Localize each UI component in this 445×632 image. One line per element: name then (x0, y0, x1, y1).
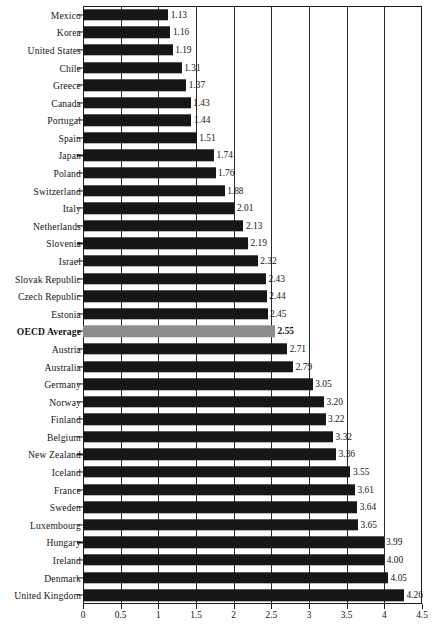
bar-value-label: 2.79 (296, 362, 312, 372)
table-row: United Kingdom4.26 (0, 586, 445, 604)
bar-value-label: 1.88 (227, 186, 243, 196)
bar-track (83, 343, 422, 354)
x-axis-tick (158, 604, 159, 609)
x-axis-tick (121, 604, 122, 609)
bar-track (83, 44, 422, 55)
table-row: Germany3.05 (0, 375, 445, 393)
category-label: Belgium (47, 431, 81, 442)
bar-value-label: 2.01 (237, 203, 253, 213)
bar-value-label: 3.64 (360, 502, 376, 512)
bar-value-label: 3.36 (339, 449, 355, 459)
table-row: Israel2.32 (0, 252, 445, 270)
table-row: Finland3.22 (0, 411, 445, 429)
table-row: Austria2.71 (0, 340, 445, 358)
bar-value-label: 1.16 (173, 27, 189, 37)
bar (83, 115, 191, 126)
x-axis-tick-label: 4.5 (416, 610, 428, 621)
bar (83, 220, 243, 231)
bar (83, 9, 168, 20)
table-row: Mexico1.13 (0, 6, 445, 24)
bar (83, 519, 358, 530)
table-row: Canada1.43 (0, 94, 445, 112)
bar-value-label: 2.45 (270, 309, 286, 319)
bar (83, 167, 216, 178)
bar (83, 27, 170, 38)
table-row: OECD Average2.55 (0, 323, 445, 341)
table-row: Ireland4.00 (0, 551, 445, 569)
bar-value-label: 3.99 (386, 537, 402, 547)
bar (83, 554, 384, 565)
bar-value-label: 4.00 (387, 555, 403, 565)
bar (83, 378, 313, 389)
x-axis-tick-label: 4 (382, 610, 387, 621)
bar-value-label: 2.13 (246, 221, 262, 231)
bar (83, 44, 173, 55)
bar (83, 203, 234, 214)
table-row: France3.61 (0, 481, 445, 499)
bar-value-label: 1.44 (194, 115, 210, 125)
bar-value-label: 1.76 (218, 168, 234, 178)
table-row: Hungary3.99 (0, 534, 445, 552)
bar-track (83, 62, 422, 73)
bar-rows: Mexico1.13Korea1.16United States1.19Chil… (0, 0, 445, 604)
table-row: Sweden3.64 (0, 498, 445, 516)
bar-value-label: 1.43 (193, 98, 209, 108)
bar-track (83, 255, 422, 266)
bar-value-label: 3.20 (327, 397, 343, 407)
bar-value-label: 2.44 (269, 291, 285, 301)
bar-value-label: 2.32 (260, 256, 276, 266)
table-row: Korea1.16 (0, 24, 445, 42)
bar (83, 273, 266, 284)
table-row: Denmark4.05 (0, 569, 445, 587)
bar-value-label: 2.71 (290, 344, 306, 354)
x-axis-tick-label: 2 (231, 610, 236, 621)
bar-value-label: 1.31 (184, 63, 200, 73)
x-axis-tick-label: 0.5 (115, 610, 127, 621)
bar-value-label: 1.51 (199, 133, 215, 143)
category-label: OECD Average (17, 326, 81, 337)
bar-track (83, 466, 422, 477)
horizontal-bar-chart: Mexico1.13Korea1.16United States1.19Chil… (0, 0, 445, 632)
x-axis-tick-label: 3 (307, 610, 312, 621)
category-label: Slovenia (46, 238, 81, 249)
x-axis-tick (384, 604, 385, 609)
bar-track (83, 167, 422, 178)
table-row: Netherlands2.13 (0, 217, 445, 235)
bar-value-label: 2.43 (269, 274, 285, 284)
category-label: Australia (44, 361, 81, 372)
category-label: Portugal (47, 115, 81, 126)
x-axis-tick-label: 2.5 (265, 610, 277, 621)
bar-value-label: 1.74 (217, 150, 233, 160)
bar (83, 466, 350, 477)
bar (83, 589, 404, 600)
bar-track (83, 589, 422, 600)
bar-value-label: 3.61 (357, 485, 373, 495)
bar-track (83, 554, 422, 565)
bar-track (83, 361, 422, 372)
bar (83, 361, 293, 372)
bar-value-label: 3.05 (315, 379, 331, 389)
bar (83, 449, 336, 460)
bar-track (83, 537, 422, 548)
x-axis-tick (271, 604, 272, 609)
table-row: Luxembourg3.65 (0, 516, 445, 534)
category-label: New Zealand (28, 449, 81, 460)
bar (83, 62, 182, 73)
table-row: Belgium3.32 (0, 428, 445, 446)
category-label: Germany (44, 379, 81, 390)
bar (83, 97, 191, 108)
bar-track (83, 273, 422, 284)
bar (83, 326, 275, 337)
bar-track (83, 9, 422, 20)
table-row: Portugal1.44 (0, 112, 445, 130)
bar-value-label: 3.32 (336, 432, 352, 442)
x-axis-tick (83, 604, 84, 609)
bar-track (83, 378, 422, 389)
x-axis-tick (234, 604, 235, 609)
table-row: Slovak Republic2.43 (0, 270, 445, 288)
bar-track (83, 79, 422, 90)
bar (83, 502, 357, 513)
bar (83, 484, 355, 495)
bar-track (83, 27, 422, 38)
bar (83, 308, 268, 319)
